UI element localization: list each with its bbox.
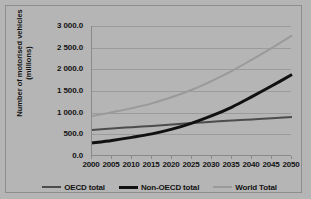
legend-item-oecd-total[interactable]: OECD total bbox=[42, 183, 105, 192]
legend-label: Non-OECD total bbox=[141, 183, 199, 192]
plot-area bbox=[91, 26, 291, 156]
x-tick-mark bbox=[151, 156, 152, 159]
x-tick-label: 2005 bbox=[103, 160, 120, 170]
chart-figure: Number of motorised vehicles (millions) … bbox=[0, 0, 311, 199]
x-tick-mark bbox=[91, 156, 92, 159]
x-tick-mark bbox=[251, 156, 252, 159]
x-tick-label: 2040 bbox=[243, 160, 260, 170]
chart-plot-frame: Number of motorised vehicles (millions) … bbox=[5, 5, 302, 193]
y-tick-label: 1 500.0 bbox=[57, 87, 83, 95]
x-tick-label: 2020 bbox=[163, 160, 180, 170]
legend-swatch-icon bbox=[42, 186, 61, 188]
x-tick-label: 2030 bbox=[203, 160, 220, 170]
x-tick-label: 2010 bbox=[123, 160, 140, 170]
y-tick-label: 3 000.0 bbox=[57, 22, 83, 30]
y-tick-label: 500.0 bbox=[63, 130, 83, 138]
chart-legend: OECD totalNon-OECD totalWorld Total bbox=[11, 179, 308, 195]
x-tick-mark bbox=[131, 156, 132, 159]
x-tick-mark bbox=[231, 156, 232, 159]
legend-item-world-total[interactable]: World Total bbox=[213, 183, 277, 192]
x-tick-mark bbox=[211, 156, 212, 159]
legend-item-non-oecd-total[interactable]: Non-OECD total bbox=[119, 183, 199, 192]
series-line-world-total bbox=[92, 36, 292, 117]
x-tick-label: 2045 bbox=[263, 160, 280, 170]
y-tick-label: 0.0 bbox=[72, 152, 83, 160]
x-tick-label: 2035 bbox=[223, 160, 240, 170]
x-tick-mark bbox=[271, 156, 272, 159]
x-tick-label: 2025 bbox=[183, 160, 200, 170]
series-lines bbox=[92, 26, 292, 156]
legend-label: World Total bbox=[235, 183, 277, 192]
x-tick-mark bbox=[291, 156, 292, 159]
series-line-non-oecd-total bbox=[92, 75, 292, 143]
x-axis-tick-labels: 2000200520102015202020252030203520402045… bbox=[91, 160, 291, 172]
y-tick-label: 1 000.0 bbox=[57, 109, 83, 117]
x-tick-label: 2000 bbox=[83, 160, 100, 170]
y-axis-tick-labels: 0.0500.01 000.01 500.02 000.02 500.03 00… bbox=[28, 26, 87, 156]
x-tick-mark bbox=[191, 156, 192, 159]
x-tick-mark bbox=[171, 156, 172, 159]
legend-swatch-icon bbox=[213, 186, 232, 188]
legend-swatch-icon bbox=[119, 186, 138, 189]
y-tick-label: 2 500.0 bbox=[57, 44, 83, 52]
x-tick-label: 2015 bbox=[143, 160, 160, 170]
x-tick-label: 2050 bbox=[283, 160, 300, 170]
y-tick-label: 2 000.0 bbox=[57, 65, 83, 73]
legend-label: OECD total bbox=[64, 183, 105, 192]
x-tick-mark bbox=[111, 156, 112, 159]
